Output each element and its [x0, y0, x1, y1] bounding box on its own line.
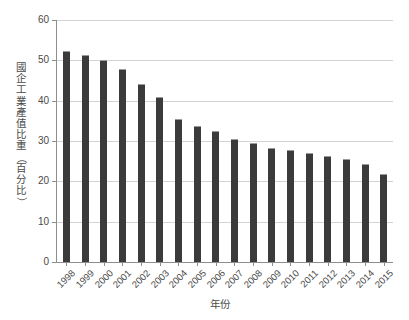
bar-2005[interactable]	[194, 126, 201, 262]
x-tick-2010	[290, 262, 291, 266]
y-axis-title: 國企工業產值比重（百分比）	[13, 62, 29, 242]
bar-1999[interactable]	[82, 55, 89, 262]
x-tick-1999	[85, 262, 86, 266]
x-axis-line	[56, 262, 393, 263]
bar-2013[interactable]	[343, 159, 350, 262]
x-axis-title: 年份	[0, 296, 409, 311]
y-tick-30	[52, 141, 57, 142]
x-tick-2011	[309, 262, 310, 266]
y-tick-label-20: 20	[27, 176, 49, 186]
x-tick-2013	[346, 262, 347, 266]
x-tick-2000	[104, 262, 105, 266]
bar-2011[interactable]	[306, 153, 313, 262]
gridline-y-50	[57, 60, 393, 61]
y-tick-label-0: 0	[27, 257, 49, 267]
x-tick-2008	[253, 262, 254, 266]
x-tick-2005	[197, 262, 198, 266]
bar-2014[interactable]	[362, 164, 369, 262]
bar-2012[interactable]	[324, 156, 331, 262]
y-tick-label-40: 40	[27, 96, 49, 106]
gridline-y-40	[57, 101, 393, 102]
bar-2006[interactable]	[212, 131, 219, 262]
y-tick-label-60: 60	[27, 15, 49, 25]
bar-2001[interactable]	[119, 69, 126, 262]
x-tick-1998	[66, 262, 67, 266]
bar-2008[interactable]	[250, 143, 257, 262]
bar-chart: 國企工業產值比重（百分比） 01020304050601998199920002…	[0, 0, 409, 320]
x-tick-2014	[365, 262, 366, 266]
x-tick-2001	[122, 262, 123, 266]
x-tick-2009	[272, 262, 273, 266]
gridline-y-30	[57, 141, 393, 142]
y-tick-20	[52, 181, 57, 182]
y-tick-label-50: 50	[27, 55, 49, 65]
bar-2009[interactable]	[268, 148, 275, 262]
y-tick-0	[52, 262, 57, 263]
x-tick-2012	[328, 262, 329, 266]
y-tick-10	[52, 222, 57, 223]
bar-1998[interactable]	[63, 51, 70, 262]
bar-2002[interactable]	[138, 84, 145, 262]
bar-2003[interactable]	[156, 97, 163, 262]
bar-2010[interactable]	[287, 150, 294, 262]
x-tick-2003	[160, 262, 161, 266]
y-axis-title-close-paren: ）	[15, 194, 26, 210]
plot-area: 0102030405060199819992000200120022003200…	[57, 20, 393, 262]
gridline-y-60	[57, 20, 393, 21]
y-tick-label-30: 30	[27, 136, 49, 146]
y-axis-title-open-paren: （	[15, 149, 26, 165]
x-tick-2015	[384, 262, 385, 266]
x-tick-2002	[141, 262, 142, 266]
bar-2000[interactable]	[100, 60, 107, 262]
x-tick-2004	[178, 262, 179, 266]
y-tick-40	[52, 101, 57, 102]
y-tick-60	[52, 20, 57, 21]
y-tick-label-10: 10	[27, 217, 49, 227]
x-tick-2007	[234, 262, 235, 266]
x-tick-2006	[216, 262, 217, 266]
bar-2004[interactable]	[175, 119, 182, 262]
bar-2015[interactable]	[380, 174, 387, 262]
y-axis-title-char-2: 工	[13, 84, 29, 95]
clipped-header-text	[22, 0, 352, 8]
y-tick-50	[52, 60, 57, 61]
bar-2007[interactable]	[231, 139, 238, 262]
